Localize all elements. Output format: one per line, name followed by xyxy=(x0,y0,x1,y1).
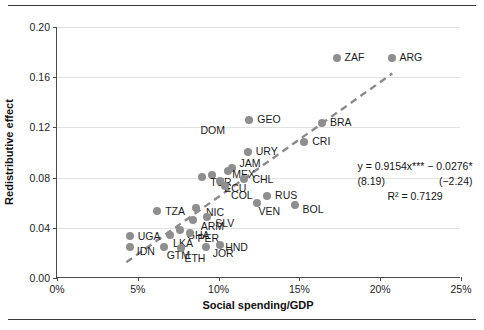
y-tick-label: 0.04 xyxy=(30,222,50,234)
gridline xyxy=(57,228,460,229)
x-tick-label: 0% xyxy=(49,283,64,295)
data-point-label: JAM xyxy=(240,158,261,169)
y-tick-label: 0.08 xyxy=(30,172,50,184)
bottom-divider-rule xyxy=(8,319,476,320)
data-point-label: BOL xyxy=(303,204,324,215)
x-tick-mark xyxy=(138,277,139,281)
data-point-label: ARG xyxy=(400,52,423,63)
data-point-marker[interactable] xyxy=(198,173,206,181)
x-axis-title: Social spending/GDP xyxy=(202,299,313,311)
x-tick-label: 15% xyxy=(289,283,310,295)
data-point-label: RUS xyxy=(275,190,297,201)
data-point-marker[interactable] xyxy=(388,54,396,62)
t-stat-slope: (8.19) xyxy=(357,174,384,189)
data-point-label: VEN xyxy=(258,206,280,217)
y-tick-mark xyxy=(53,127,57,128)
chart-figure: Redistributive effect Social spending/GD… xyxy=(0,0,484,330)
data-point-marker[interactable] xyxy=(202,243,210,251)
data-point-label: CRI xyxy=(312,136,330,147)
x-tick-mark xyxy=(57,277,58,281)
data-point-label: HND xyxy=(225,242,248,253)
y-axis-title: Redistributive effect xyxy=(3,99,15,205)
data-point-marker[interactable] xyxy=(216,241,224,249)
t-stat-intercept: (−2.24) xyxy=(439,174,473,189)
gridline xyxy=(57,77,460,78)
data-point-label: IDN xyxy=(137,246,155,257)
x-tick-mark xyxy=(380,277,381,281)
data-point-label: ZAF xyxy=(345,52,365,63)
x-tick-label: 25% xyxy=(450,283,471,295)
y-tick-mark xyxy=(53,27,57,28)
data-point-marker[interactable] xyxy=(176,226,184,234)
data-point-marker[interactable] xyxy=(333,54,341,62)
y-tick-mark xyxy=(53,228,57,229)
y-tick-mark xyxy=(53,178,57,179)
data-point-marker[interactable] xyxy=(244,148,252,156)
data-point-label: URY xyxy=(256,146,278,157)
data-point-label: BRA xyxy=(330,117,352,128)
data-point-label: ETH xyxy=(184,253,205,264)
plot-area: 0.000.040.080.120.160.20 0%5%10%15%20%25… xyxy=(56,27,460,278)
x-tick-label: 10% xyxy=(208,283,229,295)
y-tick-label: 0.12 xyxy=(30,121,50,133)
data-point-marker[interactable] xyxy=(189,216,197,224)
x-tick-label: 5% xyxy=(130,283,145,295)
data-point-label: SLV xyxy=(215,218,234,229)
data-point-label: GEO xyxy=(257,114,280,125)
gridline xyxy=(57,27,460,28)
y-tick-mark xyxy=(53,77,57,78)
data-point-marker[interactable] xyxy=(126,232,134,240)
x-tick-mark xyxy=(299,277,300,281)
data-point-marker[interactable] xyxy=(126,243,134,251)
data-point-marker[interactable] xyxy=(300,138,308,146)
x-tick-mark xyxy=(461,277,462,281)
y-tick-label: 0.20 xyxy=(30,21,50,33)
data-point-marker[interactable] xyxy=(318,119,326,127)
data-point-label: DOM xyxy=(200,125,225,136)
data-point-marker[interactable] xyxy=(224,167,232,175)
regression-equation: y = 0.9154x*** − 0.0276* xyxy=(357,159,472,174)
data-point-marker[interactable] xyxy=(192,204,200,212)
data-point-marker[interactable] xyxy=(245,116,253,124)
data-point-marker[interactable] xyxy=(263,192,271,200)
y-tick-label: 0.00 xyxy=(30,272,50,284)
x-tick-label: 20% xyxy=(370,283,391,295)
data-point-label: TZA xyxy=(165,206,185,217)
data-point-label: UGA xyxy=(138,231,161,242)
regression-annotation: y = 0.9154x*** − 0.0276* (8.19) (−2.24) … xyxy=(357,159,472,205)
r-squared-value: R² = 0.7129 xyxy=(357,189,472,204)
top-divider-rule xyxy=(8,5,476,6)
gridline xyxy=(57,127,460,128)
data-point-marker[interactable] xyxy=(291,201,299,209)
y-tick-label: 0.16 xyxy=(30,71,50,83)
data-point-label: CHL xyxy=(252,174,273,185)
regression-t-statistics: (8.19) (−2.24) xyxy=(357,174,472,189)
data-point-label: COL xyxy=(231,190,253,201)
x-tick-mark xyxy=(219,277,220,281)
data-point-marker[interactable] xyxy=(153,207,161,215)
